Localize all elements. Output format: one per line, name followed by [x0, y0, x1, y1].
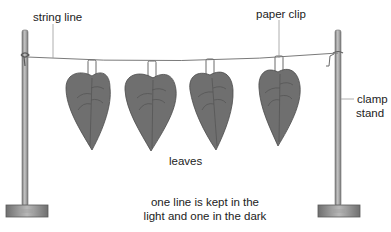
right-pole: [335, 30, 341, 206]
right-base: [318, 205, 360, 217]
leaf-4: [259, 56, 300, 146]
leaf-3: [190, 59, 233, 150]
leaf-2: [125, 61, 176, 151]
clamp-stand-label-line2: stand: [356, 107, 384, 120]
paper-clip-label: paper clip: [256, 8, 306, 21]
clamp-stand-label-line1: clamp: [357, 93, 388, 106]
leaf-1: [66, 60, 110, 150]
leaf-1-blade: [66, 73, 110, 150]
caption-line-2: light and one in the dark: [105, 209, 305, 223]
string-hook: [326, 54, 334, 66]
leaves-label: leaves: [169, 155, 202, 168]
leaf-drying-diagram: string line paper clip clamp stand leave…: [0, 0, 391, 232]
caption-line-1: one line is kept in the: [105, 195, 305, 209]
diagram-caption: one line is kept in the light and one in…: [105, 195, 305, 223]
leaf-2-blade: [125, 74, 176, 151]
leaf-3-blade: [190, 72, 233, 150]
right-clamp-stand: [318, 30, 360, 217]
string-line-label: string line: [33, 11, 82, 24]
string-line: [27, 53, 338, 61]
left-base: [6, 205, 48, 217]
paper-clip-2: [148, 61, 156, 78]
